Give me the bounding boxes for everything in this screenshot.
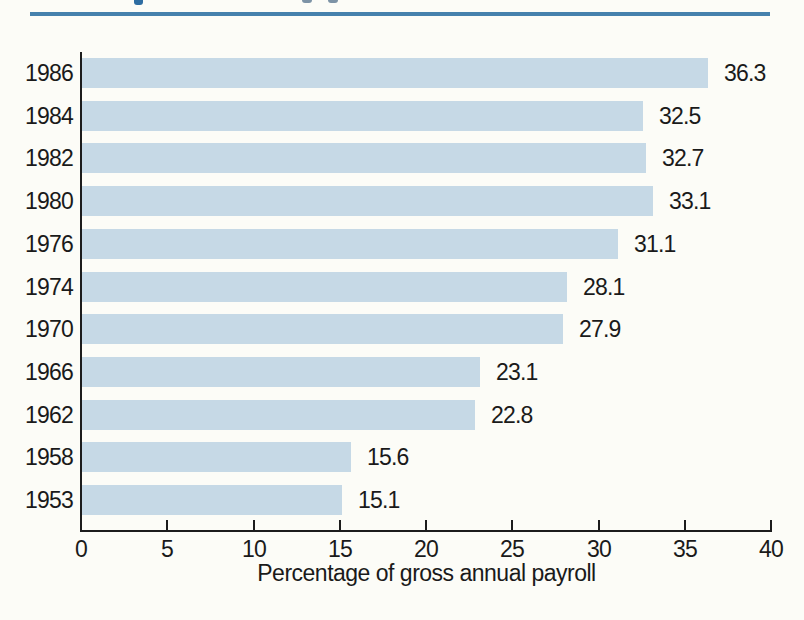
x-axis-tick-5 [166, 520, 168, 530]
x-axis-tick-25 [511, 520, 513, 530]
value-label-1976: 31.1 [634, 229, 676, 259]
x-axis-line [80, 530, 772, 532]
x-axis-tick-label-35: 35 [663, 536, 707, 563]
bar-1958 [82, 442, 351, 472]
bar-1976 [82, 229, 618, 259]
x-axis-tick-15 [339, 520, 341, 530]
value-label-1962: 22.8 [491, 400, 533, 430]
x-axis-tick-30 [598, 520, 600, 530]
x-axis-tick-20 [425, 520, 427, 530]
value-label-1982: 32.7 [662, 143, 704, 173]
x-axis-tick-label-10: 10 [232, 536, 276, 563]
x-axis-tick-label-25: 25 [490, 536, 534, 563]
bar-1984 [82, 101, 643, 131]
x-axis-tick-label-20: 20 [404, 536, 448, 563]
bar-1980 [82, 186, 653, 216]
x-axis-tick-35 [684, 520, 686, 530]
category-label-1970: 1970 [14, 314, 73, 344]
value-label-1970: 27.9 [579, 314, 621, 344]
x-axis-tick-label-40: 40 [749, 536, 793, 563]
value-label-1980: 33.1 [669, 186, 711, 216]
category-label-1976: 1976 [14, 229, 73, 259]
category-label-1958: 1958 [14, 442, 73, 472]
category-label-1984: 1984 [14, 101, 73, 131]
bar-1962 [82, 400, 475, 430]
value-label-1966: 23.1 [496, 357, 538, 387]
category-label-1962: 1962 [14, 400, 73, 430]
x-axis-tick-label-5: 5 [145, 536, 189, 563]
x-axis-tick-40 [770, 520, 772, 530]
value-label-1974: 28.1 [583, 272, 625, 302]
bar-1986 [82, 58, 708, 88]
bar-1966 [82, 357, 480, 387]
category-label-1974: 1974 [14, 272, 73, 302]
bar-1953 [82, 485, 342, 515]
bar-1970 [82, 314, 563, 344]
value-label-1986: 36.3 [724, 58, 766, 88]
x-axis-tick-10 [253, 520, 255, 530]
value-label-1984: 32.5 [659, 101, 701, 131]
scanned-figure-page: 198636.3198432.5198232.7198033.1197631.1… [0, 0, 804, 620]
x-axis-title: Percentage of gross annual payroll [81, 560, 772, 587]
x-axis-tick-label-0: 0 [59, 536, 103, 563]
bar-1982 [82, 143, 646, 173]
bar-1974 [82, 272, 567, 302]
category-label-1980: 1980 [14, 186, 73, 216]
value-label-1953: 15.1 [358, 485, 400, 515]
x-axis-tick-label-30: 30 [577, 536, 621, 563]
value-label-1958: 15.6 [367, 442, 409, 472]
category-label-1966: 1966 [14, 357, 73, 387]
category-label-1953: 1953 [14, 485, 73, 515]
category-label-1986: 1986 [14, 58, 73, 88]
horizontal-bar-chart: 198636.3198432.5198232.7198033.1197631.1… [0, 0, 804, 620]
category-label-1982: 1982 [14, 143, 73, 173]
x-axis-tick-label-15: 15 [318, 536, 362, 563]
